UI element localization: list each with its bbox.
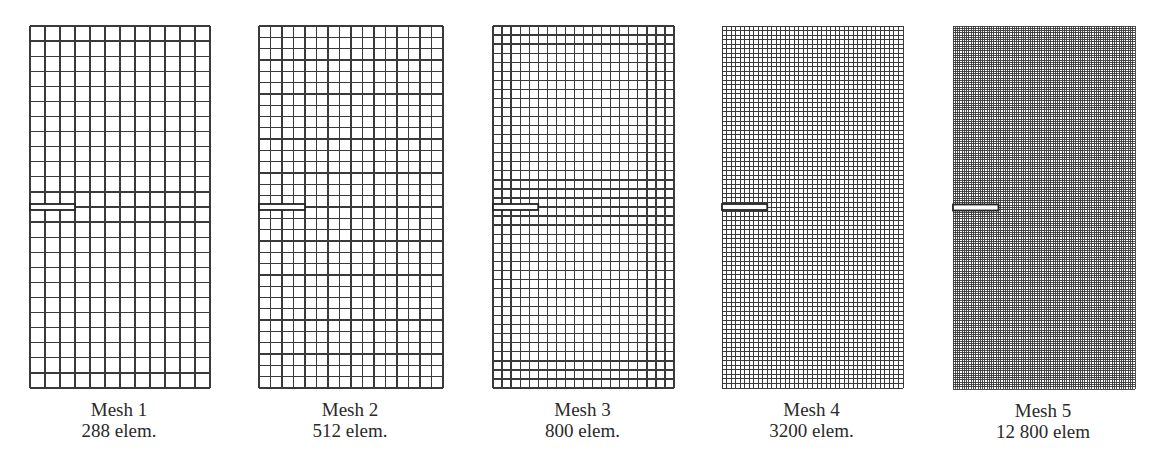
mesh-panel-3 — [492, 25, 673, 387]
mesh-panel-1 — [29, 25, 209, 387]
mesh-grid-5 — [952, 25, 1136, 390]
mesh-panel-5 — [952, 25, 1134, 388]
mesh-title: Mesh 3 — [483, 399, 683, 420]
mesh-title: Mesh 4 — [712, 399, 912, 420]
mesh-grid-2 — [258, 25, 444, 389]
crack-slot — [953, 205, 999, 211]
mesh-grid-3 — [492, 25, 675, 389]
mesh-grid-1 — [29, 25, 211, 389]
mesh-grid-4 — [721, 25, 904, 389]
mesh-title: Mesh 1 — [19, 399, 219, 420]
mesh-caption-4: Mesh 43200 elem. — [712, 399, 912, 441]
mesh-caption-5: Mesh 512 800 elem — [943, 400, 1143, 442]
element-count: 512 elem. — [250, 420, 450, 441]
mesh-panel-2 — [258, 25, 442, 387]
crack-slot — [259, 204, 305, 210]
crack-slot — [30, 204, 75, 210]
mesh-caption-1: Mesh 1288 elem. — [19, 399, 219, 441]
element-count: 288 elem. — [19, 420, 219, 441]
crack-slot — [493, 204, 538, 210]
mesh-caption-3: Mesh 3800 elem. — [483, 399, 683, 441]
mesh-title: Mesh 2 — [250, 399, 450, 420]
element-count: 3200 elem. — [712, 420, 912, 441]
element-count: 12 800 elem — [943, 421, 1143, 442]
mesh-caption-2: Mesh 2512 elem. — [250, 399, 450, 441]
mesh-panel-4 — [721, 25, 902, 387]
element-count: 800 elem. — [483, 420, 683, 441]
crack-slot — [722, 204, 767, 210]
mesh-title: Mesh 5 — [943, 400, 1143, 421]
